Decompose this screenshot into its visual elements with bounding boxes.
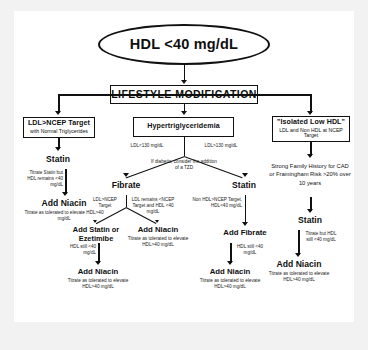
- note-mid-add-niacin: Titrate as tolerated to elevate HDL>40 m…: [126, 236, 190, 248]
- node-mid-statin: Statin: [214, 181, 274, 191]
- node-mid-fibrate-label: Fibrate: [112, 180, 141, 190]
- arrow-risk-to-statin: [307, 209, 313, 213]
- arrow-root-to-lifestyle: [181, 80, 187, 84]
- node-add-statin-ezetimibe-label: Add Statin or Ezetimibe: [73, 225, 119, 243]
- note-mid-tzd-text: If diabetic, consider the addition of a …: [151, 159, 217, 170]
- arrow-fibrate-to-final-niacin: [227, 261, 233, 265]
- node-left-statin: Statin: [18, 155, 98, 165]
- arrow-mid-to-statin: [242, 173, 248, 177]
- label-non-hdl-gt-ncep: Non HDL>NCEP Target, HDL<40 mg/dL: [190, 197, 242, 209]
- node-final-left-add-niacin-label: Add Niacin: [78, 267, 119, 276]
- node-mid-add-niacin: Add Niacin: [127, 226, 189, 235]
- label-hdl-still-left: HDL still <40 mg/dL: [62, 244, 96, 256]
- node-mid-add-niacin-label: Add Niacin: [138, 225, 179, 234]
- node-right-statin: Statin: [280, 216, 340, 226]
- node-right-statin-label: Statin: [298, 215, 322, 225]
- node-hypertriglyceridemia: Hypertriglyceridemia: [133, 117, 234, 137]
- note-final-right-add-niacin: Titrate as tolerated to elevate HDL>40 m…: [196, 278, 264, 290]
- arrow-right-box-to-risk: [307, 154, 313, 158]
- label-hdl-still-left-text: HDL still <40 mg/dL: [70, 244, 96, 255]
- label-right-titrate-but-hdl: Titrate but HDL still <40 mg/dL: [302, 231, 340, 243]
- arrow-ezetimibe-to-niacin: [95, 261, 101, 265]
- node-right-add-niacin-label: Add Niacin: [277, 259, 322, 269]
- connector-mid-box-drop: [184, 137, 186, 156]
- node-final-right-add-niacin: Add Niacin: [198, 268, 262, 277]
- node-mid-statin-label: Statin: [232, 180, 256, 190]
- label-mid-ldl-lt-130: LDL<130 mg/dL: [120, 143, 174, 149]
- node-final-right-add-niacin-label: Add Niacin: [210, 267, 251, 276]
- flowchart-canvas: HDL <40 mg/dL LIFESTYLE MODIFICATION LDL…: [14, 11, 354, 322]
- label-mid-ldl-gt-130: LDL>130 mg/dL: [194, 143, 248, 149]
- label-hdl-still-right: HDL still <40 mg/dL: [233, 244, 267, 256]
- node-mid-fibrate: Fibrate: [96, 181, 156, 191]
- note-left-titrate-tolerated-text: Titrate as tolerated to elevate HDL>40 m…: [24, 210, 103, 221]
- node-left-add-niacin-label: Add Niacin: [42, 198, 87, 208]
- label-hdl-still-right-text: HDL still <40 mg/dL: [237, 244, 263, 255]
- note-mid-add-niacin-text: Titrate as tolerated to elevate HDL>40 m…: [128, 236, 189, 247]
- node-family-history-risk: Strong Family History for CAD or Framing…: [268, 162, 352, 187]
- node-add-fibrate: Add Fibrate: [214, 229, 276, 238]
- node-isolated-low-hdl: "Isolated Low HDL" LDL and Non HDL at NC…: [272, 116, 350, 142]
- node-add-statin-ezetimibe: Add Statin or Ezetimibe: [66, 226, 126, 244]
- label-fibrate-ldl-remains-text: LDL remains <NCEP Target and HDL <40 mg/…: [132, 197, 175, 214]
- node-hypertriglyceridemia-label: Hypertriglyceridemia: [147, 123, 220, 131]
- node-ldl-ncep-target: LDL>NCEP Target with Normal Triglyceride…: [23, 117, 95, 138]
- connector-right-statin-to-niacin: [298, 230, 300, 255]
- label-right-titrate-but-hdl-text: Titrate but HDL still <40 mg/dL: [306, 231, 337, 242]
- node-root-label: HDL <40 mg/dL: [130, 36, 238, 52]
- node-left-statin-label: Statin: [46, 154, 70, 164]
- note-mid-tzd: If diabetic, consider the addition of a …: [150, 159, 218, 171]
- node-isolated-low-hdl-title: "Isolated Low HDL": [277, 119, 345, 127]
- label-fibrate-ldl-remains: LDL remains <NCEP Target and HDL <40 mg/…: [127, 197, 179, 215]
- label-mid-ldl-lt-130-text: LDL<130 mg/dL: [131, 143, 164, 148]
- image-frame: HDL <40 mg/dL LIFESTYLE MODIFICATION LDL…: [0, 0, 368, 350]
- note-right-titrate-tolerated: Titrate as tolerated to elevate HDL>40 m…: [264, 271, 334, 283]
- connector-ezetimibe-to-niacin: [98, 243, 100, 263]
- node-ldl-ncep-sub: with Normal Triglycerides: [30, 129, 88, 135]
- label-fibrate-ldl-gt-ncep: LDL>NCEP Target: [88, 197, 122, 209]
- connector-mid-statin-to-fibrate: [245, 195, 247, 224]
- node-final-left-add-niacin: Add Niacin: [66, 268, 130, 277]
- connector-left-statin-to-niacin: [65, 169, 67, 194]
- arrow-fibrate-to-statin-ezetimibe: [93, 220, 97, 223]
- arrow-right-statin-to-niacin: [295, 253, 301, 257]
- arrow-left-statin-to-niacin: [62, 192, 68, 196]
- note-final-left-add-niacin-text: Titrate as tolerated to elevate HDL>40 m…: [68, 278, 129, 289]
- label-non-hdl-gt-ncep-text: Non HDL>NCEP Target, HDL<40 mg/dL: [193, 197, 243, 208]
- label-left-titrate-statin-text: Titrate Statin but HDL remains <40 mg/dL: [27, 170, 63, 187]
- node-family-history-risk-text: Strong Family History for CAD or Framing…: [269, 163, 351, 186]
- node-root-hdl: HDL <40 mg/dL: [98, 24, 270, 65]
- arrow-branch-left: [55, 111, 61, 115]
- label-mid-ldl-gt-130-text: LDL>130 mg/dL: [205, 143, 238, 148]
- connector-bus-horizontal: [58, 94, 311, 96]
- arrow-mid-to-fibrate: [123, 173, 129, 177]
- note-final-right-add-niacin-text: Titrate as tolerated to elevate HDL>40 m…: [200, 278, 261, 289]
- note-final-left-add-niacin: Titrate as tolerated to elevate HDL>40 m…: [64, 278, 132, 290]
- connector-fibrate-to-niacin: [230, 243, 232, 263]
- node-ldl-ncep-title: LDL>NCEP Target: [28, 120, 90, 128]
- node-isolated-low-hdl-sub: LDL and Non HDL at NCEP Target: [275, 128, 347, 140]
- arrow-fibrate-to-add-niacin: [155, 220, 159, 223]
- arrow-branch-right: [307, 111, 313, 115]
- arrow-branch-mid: [181, 111, 187, 115]
- note-right-titrate-tolerated-text: Titrate as tolerated to elevate HDL>40 m…: [269, 271, 330, 282]
- arrow-mid-statin-to-add-fibrate: [242, 222, 248, 226]
- node-right-add-niacin: Add Niacin: [266, 260, 332, 270]
- label-left-titrate-statin: Titrate Statin but HDL remains <40 mg/dL: [20, 170, 63, 188]
- node-add-fibrate-label: Add Fibrate: [223, 228, 266, 237]
- arrow-left-to-statin: [55, 147, 61, 151]
- label-fibrate-ldl-gt-ncep-text: LDL>NCEP Target: [93, 197, 117, 208]
